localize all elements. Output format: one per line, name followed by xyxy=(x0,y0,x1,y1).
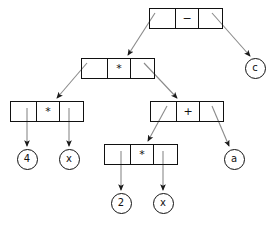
node-multiply-3-operator-label: * xyxy=(130,145,154,164)
node-multiply-1-operator-label: * xyxy=(107,59,131,78)
node-minus-left-pointer-cell xyxy=(150,9,175,28)
node-multiply-2-operator-label: * xyxy=(36,102,60,121)
node-plus-left-pointer-cell xyxy=(151,102,176,121)
node-multiply-2-left-pointer-cell xyxy=(11,102,36,121)
node-multiply-2: * xyxy=(10,101,84,122)
node-plus-operator-label: + xyxy=(176,102,200,121)
expression-tree-diagram: − * * + * c 4 x a 2 x xyxy=(0,0,276,228)
node-minus-operator-label: − xyxy=(175,9,199,28)
node-multiply-1: * xyxy=(81,58,155,79)
node-plus: + xyxy=(150,101,224,122)
node-minus-right-pointer-cell xyxy=(199,9,224,28)
node-multiply-1-right-pointer-cell xyxy=(131,59,156,78)
node-multiply-1-left-pointer-cell xyxy=(82,59,107,78)
node-multiply-2-right-pointer-cell xyxy=(60,102,85,121)
node-minus: − xyxy=(149,8,223,29)
leaf-node-x-2: x xyxy=(153,193,174,214)
leaf-node-2: 2 xyxy=(111,193,132,214)
node-multiply-3-left-pointer-cell xyxy=(105,145,130,164)
leaf-node-a: a xyxy=(224,149,245,170)
leaf-node-x-1: x xyxy=(59,149,80,170)
leaf-node-4: 4 xyxy=(17,149,38,170)
leaf-node-c: c xyxy=(245,58,266,79)
node-plus-right-pointer-cell xyxy=(200,102,225,121)
node-multiply-3: * xyxy=(104,144,178,165)
node-multiply-3-right-pointer-cell xyxy=(154,145,179,164)
